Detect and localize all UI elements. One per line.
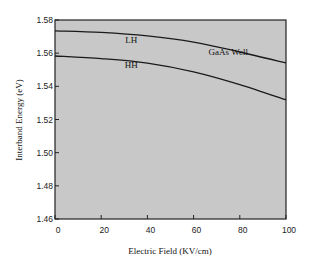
x-axis-title: Electric Field (KV/cm) — [128, 246, 211, 256]
annotation-lh: LH — [125, 35, 137, 45]
y-tick-label: 1.50 — [36, 148, 53, 158]
annotation-hh: HH — [125, 60, 138, 70]
chart: 1.461.481.501.521.541.561.58 02040608010… — [0, 0, 309, 268]
y-tick-label: 1.54 — [36, 81, 53, 91]
x-tick-label: 60 — [192, 225, 202, 235]
x-tick-label: 80 — [238, 225, 248, 235]
plot-area — [55, 20, 286, 219]
y-tick-label: 1.56 — [36, 48, 53, 58]
y-tick-label: 1.48 — [36, 181, 53, 191]
x-tick-label: 0 — [56, 225, 61, 235]
annotation-gaas-well: GaAs Well — [209, 47, 249, 57]
y-tick-label: 1.52 — [36, 115, 53, 125]
y-axis-title: Interband Energy (eV) — [14, 79, 24, 160]
x-tick-label: 100 — [282, 225, 296, 235]
y-tick-label: 1.58 — [36, 15, 53, 25]
x-tick-label: 20 — [99, 225, 109, 235]
y-tick-label: 1.46 — [36, 214, 53, 224]
x-tick-label: 40 — [146, 225, 156, 235]
